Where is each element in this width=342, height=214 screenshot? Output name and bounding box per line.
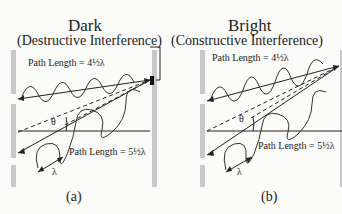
barrier-left-middle xyxy=(200,104,205,158)
panel-a-diagram xyxy=(0,0,171,214)
screen-right xyxy=(152,50,157,187)
panel-b-diagram xyxy=(171,0,342,214)
panel-a-destructive: Dark (Destructive Interference) P xyxy=(0,0,171,214)
top-ray xyxy=(207,66,339,101)
panel-a-wavelength-label: λ xyxy=(52,166,57,177)
panel-b-bottom-path-label: Path Length = 5½λ xyxy=(258,140,335,151)
panel-b-caption: (b) xyxy=(261,189,277,205)
panel-b-top-path-label: Path Length = 4½λ xyxy=(212,52,289,63)
barrier-left-bottom xyxy=(200,165,205,187)
arrowhead-icon xyxy=(207,150,214,156)
center-dashed-line xyxy=(18,80,150,132)
panel-a-top-path-label: Path Length = 4½λ xyxy=(28,57,105,68)
panel-a-bottom-path-label: Path Length = 5½λ xyxy=(69,146,146,157)
top-wave xyxy=(211,60,323,101)
arrowhead-icon xyxy=(38,166,44,172)
panel-b-wavelength-label: λ xyxy=(237,166,242,177)
screen-point-marker xyxy=(150,76,154,85)
bottom-ray xyxy=(18,80,150,153)
panel-a-angle-label: θ xyxy=(51,116,56,127)
panel-b-constructive: Bright (Constructive Interference) Path … xyxy=(171,0,342,214)
arrowhead-icon xyxy=(18,148,25,154)
barrier-left-top xyxy=(200,50,205,94)
center-dashed-line xyxy=(207,66,339,131)
bottom-wave xyxy=(224,91,326,171)
barrier-left-top xyxy=(11,50,16,94)
arrowhead-icon xyxy=(207,96,214,102)
panel-b-angle-label: θ xyxy=(239,113,244,124)
barrier-left-bottom xyxy=(11,165,16,187)
arrowhead-icon xyxy=(18,95,24,101)
panel-a-caption: (a) xyxy=(66,189,82,205)
arrowhead-icon xyxy=(226,166,232,172)
top-ray xyxy=(18,80,150,99)
barrier-left-middle xyxy=(11,104,16,158)
